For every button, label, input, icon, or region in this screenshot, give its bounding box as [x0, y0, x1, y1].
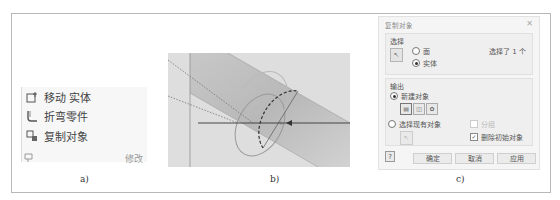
- radio-new-object-circle[interactable]: [390, 92, 398, 100]
- panel-footer: 修改: [24, 152, 143, 164]
- radio-face[interactable]: 面: [412, 46, 430, 56]
- modify-panel: 移动 实体 折弯零件 复制对象 修改: [21, 87, 147, 162]
- copy-object-icon: [26, 130, 38, 142]
- select-group: 选择 ↖ 面 实体 选择了 1 个: [385, 33, 533, 75]
- surface-output-icon[interactable]: ▤: [400, 103, 412, 115]
- output-group-title: 输出: [390, 81, 404, 91]
- copy-object-item[interactable]: 复制对象: [26, 128, 88, 144]
- group-checkbox-box[interactable]: [470, 120, 478, 128]
- move-body-icon: [26, 91, 38, 103]
- radio-existing-object[interactable]: 选择现有对象: [388, 119, 441, 129]
- model-viewport[interactable]: [168, 53, 350, 167]
- output-group: 输出 新建对象 ▤ ◫ ✿ 选择现有对象 ↖ 分组 ✓ 删除初始对象: [385, 78, 533, 146]
- select-group-title: 选择: [390, 36, 404, 46]
- cylinder-bend-preview: [168, 53, 350, 167]
- selection-count-text: 选择了 1 个: [489, 46, 526, 56]
- copy-object-dialog: 复制对象 ✕ 选择 ↖ 面 实体 选择了 1 个 输出 新建对象 ▤ ◫ ✿ 选…: [378, 16, 540, 170]
- help-button[interactable]: ?: [385, 151, 395, 162]
- remove-original-checkbox-label: 删除初始对象: [481, 132, 523, 142]
- remove-original-checkbox-box[interactable]: ✓: [470, 133, 478, 141]
- solid-output-icon[interactable]: ✿: [426, 103, 438, 115]
- bend-part-icon: [26, 110, 38, 122]
- radio-new-object-label: 新建对象: [401, 91, 429, 101]
- existing-object-pick-button[interactable]: ↖: [400, 131, 413, 145]
- bend-part-item[interactable]: 折弯零件: [26, 108, 88, 124]
- copy-object-label: 复制对象: [44, 128, 88, 144]
- composite-output-icon[interactable]: ◫: [413, 103, 425, 115]
- cancel-button[interactable]: 取消: [455, 153, 494, 164]
- modify-panel-title: 修改: [125, 152, 143, 164]
- move-body-label: 移动 实体: [44, 89, 92, 105]
- remove-original-checkbox[interactable]: ✓ 删除初始对象: [470, 132, 523, 142]
- radio-body[interactable]: 实体: [412, 58, 437, 68]
- radio-body-circle[interactable]: [412, 59, 420, 67]
- close-icon[interactable]: ✕: [526, 19, 533, 28]
- move-body-item[interactable]: 移动 实体: [26, 89, 92, 105]
- ok-button[interactable]: 确定: [413, 153, 452, 164]
- radio-existing-object-circle[interactable]: [388, 120, 396, 128]
- radio-existing-object-label: 选择现有对象: [399, 119, 441, 129]
- dialog-title: 复制对象: [385, 20, 413, 30]
- radio-body-label: 实体: [423, 58, 437, 68]
- sublabel-b: b): [270, 174, 279, 184]
- selection-count: 选择了 1 个: [489, 46, 526, 56]
- group-checkbox[interactable]: 分组: [470, 119, 495, 129]
- sublabel-a: a): [80, 174, 89, 184]
- bend-part-label: 折弯零件: [44, 108, 88, 124]
- radio-face-circle[interactable]: [412, 47, 420, 55]
- pin-icon[interactable]: [24, 152, 34, 164]
- group-checkbox-label: 分组: [481, 119, 495, 129]
- apply-button[interactable]: 应用: [497, 153, 536, 164]
- select-pointer-button[interactable]: ↖: [390, 48, 403, 62]
- radio-face-label: 面: [423, 46, 430, 56]
- sublabel-c: c): [456, 174, 465, 184]
- radio-new-object[interactable]: 新建对象: [390, 91, 429, 101]
